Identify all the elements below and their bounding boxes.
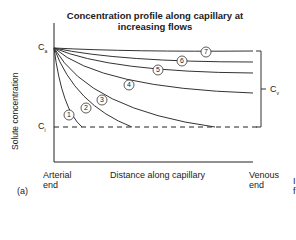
cut-text-2: f bbox=[293, 186, 296, 196]
curve-label-3: 3 bbox=[99, 95, 105, 105]
panel-label: (a) bbox=[17, 186, 28, 196]
curve-label-4: 4 bbox=[126, 80, 132, 90]
cv-bracket bbox=[256, 51, 261, 127]
arterial-end-label: Arterialend bbox=[43, 170, 72, 190]
y-axis-label: Solute concentration bbox=[10, 73, 20, 151]
curve-label-7: 7 bbox=[203, 47, 209, 57]
venous-end-label: Venousend bbox=[249, 170, 279, 190]
curve-6 bbox=[54, 48, 253, 62]
curve-label-1: 1 bbox=[66, 110, 72, 120]
curve-label-2: 2 bbox=[83, 103, 89, 113]
cv-label: Cv bbox=[270, 84, 279, 98]
x-axis-label: Distance along capillary bbox=[110, 170, 205, 180]
ci-label: Ci bbox=[38, 121, 46, 135]
curve-7 bbox=[54, 48, 253, 51]
curve-label-5: 5 bbox=[155, 65, 161, 75]
curve-3 bbox=[54, 48, 215, 127]
ca-label: Ca bbox=[38, 42, 47, 56]
curve-label-6: 6 bbox=[179, 56, 185, 66]
cut-text-1: I bbox=[293, 176, 296, 186]
